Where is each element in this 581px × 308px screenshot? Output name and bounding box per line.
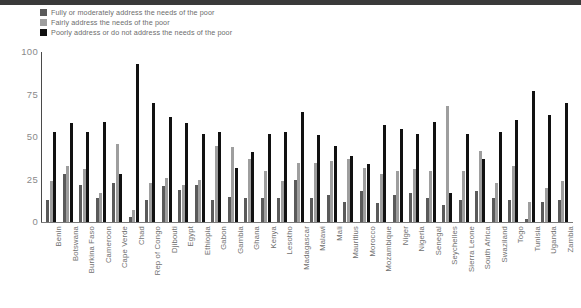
bar-group — [538, 52, 555, 222]
y-tick-label: 100 — [4, 46, 38, 57]
bar — [515, 120, 518, 222]
bar-group — [126, 52, 143, 222]
chart-plot-area: 0255075100 BeninBotswanaBurkina FasoCame… — [0, 0, 581, 308]
bar-group — [159, 52, 176, 222]
bar-group — [505, 52, 522, 222]
bar — [400, 129, 403, 223]
bar — [70, 123, 73, 222]
bar-group — [472, 52, 489, 222]
x-tick-label: Nigeria — [417, 226, 426, 251]
y-tick-label: 75 — [4, 89, 38, 100]
bar — [268, 134, 271, 222]
bar — [449, 193, 452, 222]
bar — [185, 123, 188, 222]
bar-group — [192, 52, 209, 222]
x-tick-label: Togo — [516, 226, 525, 243]
bar — [218, 132, 221, 222]
bar-group — [522, 52, 539, 222]
bar-groups — [43, 52, 571, 222]
x-tick-label: Cameroon — [104, 226, 113, 263]
bar-group — [423, 52, 440, 222]
x-tick-label: Egypt — [186, 226, 195, 246]
bar-group — [555, 52, 572, 222]
bar — [433, 122, 436, 222]
bar — [235, 168, 238, 222]
x-tick-label: Mauritius — [351, 226, 360, 259]
y-tick: 25 — [0, 174, 38, 186]
x-tick-label: Mozambique — [384, 226, 393, 271]
x-tick-label: Gabon — [219, 226, 228, 250]
x-tick-label: Niger — [401, 226, 410, 245]
bar — [482, 159, 485, 222]
x-axis-labels: BeninBotswanaBurkina FasoCameroonCape Ve… — [43, 226, 571, 306]
bar-group — [357, 52, 374, 222]
bar-group — [142, 52, 159, 222]
x-tick-label: Sierra Leone — [467, 226, 476, 272]
bar — [548, 115, 551, 222]
x-axis-line — [41, 222, 573, 223]
bar — [136, 64, 139, 222]
bar-group — [406, 52, 423, 222]
x-tick-label: Zambia — [566, 226, 575, 253]
x-tick-label: Malawi — [318, 226, 327, 251]
bar — [350, 156, 353, 222]
bar-group — [225, 52, 242, 222]
bar — [103, 122, 106, 222]
bar — [383, 125, 386, 222]
x-tick-label: Djibouti — [170, 226, 179, 253]
bar — [53, 132, 56, 222]
y-tick: 50 — [0, 131, 38, 143]
bar-group — [109, 52, 126, 222]
bar — [284, 132, 287, 222]
bar — [152, 103, 155, 222]
bar-group — [258, 52, 275, 222]
bar — [416, 134, 419, 222]
y-tick-label: 50 — [4, 131, 38, 142]
bar-group — [456, 52, 473, 222]
x-tick-label: Ghana — [252, 226, 261, 250]
x-tick-label: Tunisia — [533, 226, 542, 252]
x-tick-label: Seychelles — [450, 226, 459, 265]
bar — [169, 117, 172, 222]
y-tick-label: 0 — [4, 216, 38, 227]
x-tick-label: Morocco — [368, 226, 377, 257]
bar-group — [390, 52, 407, 222]
x-tick-label: Swaziland — [500, 226, 509, 262]
bar — [317, 135, 320, 222]
x-tick-label: Chad — [137, 226, 146, 245]
bar-group — [241, 52, 258, 222]
bar-group — [373, 52, 390, 222]
x-tick-label: Senegal — [434, 226, 443, 255]
x-tick-label: South Africa — [483, 226, 492, 269]
x-tick-label: Uganda — [549, 226, 558, 254]
y-tick: 0 — [0, 216, 38, 228]
y-tick-label: 25 — [4, 174, 38, 185]
x-tick-label: Botswana — [71, 226, 80, 261]
x-tick-label: Ethiopia — [203, 226, 212, 255]
bar — [367, 164, 370, 222]
x-tick-label: Kenya — [269, 226, 278, 249]
bar-group — [324, 52, 341, 222]
bar-group — [489, 52, 506, 222]
x-tick-label: Madagascar — [302, 226, 311, 270]
bar-group — [307, 52, 324, 222]
x-tick-label: Lesotho — [285, 226, 294, 254]
bar — [499, 132, 502, 222]
bar-group — [439, 52, 456, 222]
bar-group — [175, 52, 192, 222]
y-tick: 100 — [0, 46, 38, 58]
x-tick-label: Burkina Faso — [87, 226, 96, 273]
x-tick-label: Mali — [335, 226, 344, 241]
y-tick: 75 — [0, 89, 38, 101]
bar — [86, 132, 89, 222]
bar-group — [291, 52, 308, 222]
bar-group — [43, 52, 60, 222]
bar — [251, 152, 254, 222]
x-tick-label: Gambia — [236, 226, 245, 254]
bar-group — [60, 52, 77, 222]
bar — [301, 112, 304, 223]
x-tick-label: Benin — [54, 226, 63, 246]
chart-page: Fully or moderately address the needs of… — [0, 0, 581, 308]
bar — [202, 134, 205, 222]
bar — [466, 134, 469, 222]
